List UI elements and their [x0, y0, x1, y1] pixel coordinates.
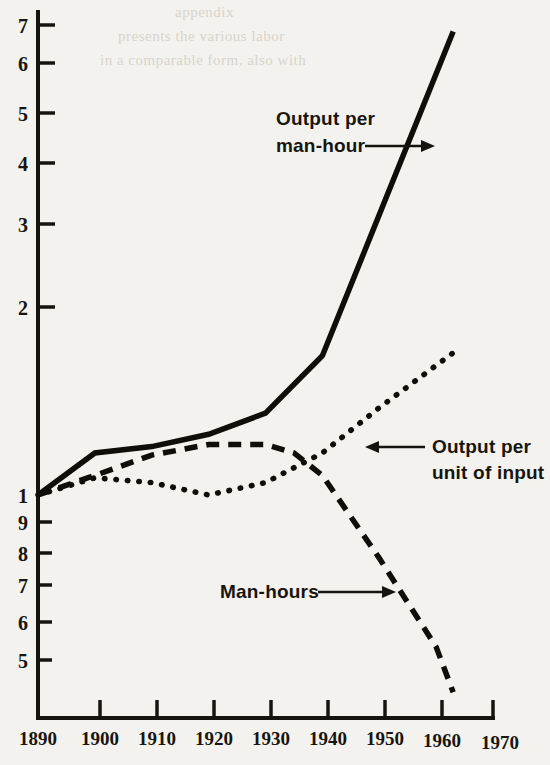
y-axis-ticks — [38, 25, 55, 660]
productivity-line-chart: 7 6 5 4 3 2 1 9 8 7 6 5 1890 1900 — [0, 0, 550, 765]
x-label-1970: 1970 — [481, 732, 519, 753]
y-label-2: 2 — [18, 297, 28, 319]
series-output-per-unit-of-input — [38, 353, 453, 495]
y-label-6: 6 — [18, 53, 28, 75]
x-label-1940: 1940 — [309, 728, 347, 749]
x-axis-ticks — [100, 700, 493, 718]
annotation-1-line-2: man-hour — [276, 135, 366, 156]
x-label-1960: 1960 — [423, 730, 461, 751]
x-label-1890: 1890 — [19, 728, 57, 749]
y-label-0.9: 9 — [18, 512, 28, 534]
y-label-1: 1 — [18, 485, 28, 507]
y-label-7: 7 — [18, 15, 28, 37]
annotation-output-per-unit-of-input: Output per unit of input — [365, 436, 545, 483]
y-label-0.5: 5 — [18, 650, 28, 672]
annotation-2-line-2: unit of input — [432, 462, 545, 483]
annotation-man-hours: Man-hours — [220, 581, 396, 602]
axes — [38, 12, 493, 718]
chart-container: appendix presents the various labor in a… — [0, 0, 550, 765]
y-label-0.6: 6 — [18, 612, 28, 634]
annotation-2-line-1: Output per — [432, 436, 532, 457]
y-label-0.8: 8 — [18, 543, 28, 565]
x-label-1910: 1910 — [138, 728, 176, 749]
y-label-3: 3 — [18, 214, 28, 236]
x-axis-tick-labels: 1890 1900 1910 1920 1930 1940 1950 1960 … — [19, 728, 519, 753]
axis-lines — [38, 12, 493, 718]
y-label-0.7: 7 — [18, 575, 28, 597]
y-axis-tick-labels: 7 6 5 4 3 2 1 9 8 7 6 5 — [18, 15, 28, 672]
series-man-hours — [38, 444, 453, 692]
x-label-1920: 1920 — [195, 728, 233, 749]
series-output-per-man-hour — [38, 31, 453, 495]
y-label-4: 4 — [18, 153, 28, 175]
x-label-1900: 1900 — [81, 728, 119, 749]
x-label-1950: 1950 — [366, 728, 404, 749]
annotation-3-arrow-right-icon — [318, 586, 396, 598]
annotation-1-arrow-right-icon — [365, 140, 435, 152]
annotation-3-line-1: Man-hours — [220, 581, 319, 602]
y-label-5: 5 — [18, 103, 28, 125]
annotation-1-line-1: Output per — [276, 108, 376, 129]
x-label-1930: 1930 — [252, 728, 290, 749]
annotation-2-arrow-left-icon — [365, 441, 425, 453]
